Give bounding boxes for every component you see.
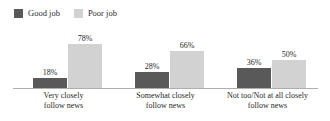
bar-poor-job-1	[170, 51, 204, 88]
bar-good-job-1	[135, 72, 169, 88]
bar-poor-job-2	[272, 60, 306, 88]
bar-value-label: 36%	[237, 58, 271, 67]
category-label-line: Very closely	[13, 91, 114, 101]
bar-group-2: 36% 50%	[217, 26, 318, 88]
category-label-0: Very closely follow news	[13, 91, 114, 111]
bar-value-label: 28%	[135, 62, 169, 71]
bar-value-label: 18%	[33, 68, 67, 77]
bar-good-job-0	[33, 78, 67, 88]
bar-good-job-2	[237, 68, 271, 88]
bar-poor-job-0	[68, 44, 102, 88]
chart-legend: Good job Poor job	[14, 7, 117, 19]
category-label-2: Not too/Not at all closely follow news	[215, 91, 320, 111]
grouped-bar-chart: Good job Poor job 18% 78% 28% 66	[0, 0, 330, 121]
legend-swatch-good-job	[14, 9, 23, 18]
legend-label-poor-job: Poor job	[88, 9, 117, 18]
category-label-line: follow news	[115, 101, 216, 111]
category-label-line: Somewhat closely	[115, 91, 216, 101]
bar-value-label: 66%	[170, 41, 204, 50]
bar-value-label: 78%	[68, 34, 102, 43]
x-axis-baseline	[13, 88, 318, 89]
legend-swatch-poor-job	[74, 9, 83, 18]
category-label-line: follow news	[13, 101, 114, 111]
bar-value-label: 50%	[272, 50, 306, 59]
legend-item-good-job: Good job	[14, 9, 60, 18]
plot-area: 18% 78% 28% 66% 36% 50%	[0, 26, 330, 88]
category-label-line: follow news	[215, 101, 320, 111]
category-label-1: Somewhat closely follow news	[115, 91, 216, 111]
x-axis-category-labels: Very closely follow news Somewhat closel…	[0, 91, 330, 121]
legend-label-good-job: Good job	[28, 9, 60, 18]
category-label-line: Not too/Not at all closely	[215, 91, 320, 101]
bar-group-1: 28% 66%	[115, 26, 216, 88]
bar-group-0: 18% 78%	[13, 26, 114, 88]
legend-item-poor-job: Poor job	[74, 9, 117, 18]
